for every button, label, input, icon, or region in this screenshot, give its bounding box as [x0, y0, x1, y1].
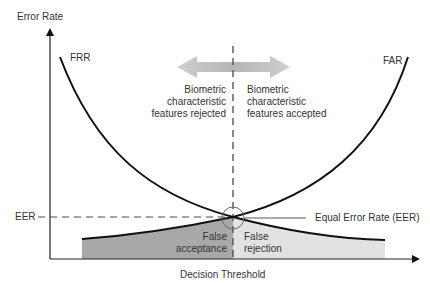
false-acceptance-label: False acceptance — [160, 231, 227, 255]
x-axis-label: Decision Threshold — [180, 269, 265, 281]
far-label: FAR — [383, 55, 402, 67]
accepted-text: Biometric characteristic features accept… — [247, 84, 327, 120]
y-axis-label: Error Rate — [17, 11, 63, 23]
rejected-text: Biometric characteristic features reject… — [148, 84, 226, 120]
eer-axis-label: EER — [15, 211, 36, 223]
x-axis-arrow-icon — [412, 255, 420, 263]
y-axis-arrow-icon — [46, 28, 54, 36]
frr-label: FRR — [70, 52, 91, 64]
eer-callout-label: Equal Error Rate (EER) — [315, 212, 419, 224]
false-rejection-label: False rejection — [244, 231, 282, 255]
